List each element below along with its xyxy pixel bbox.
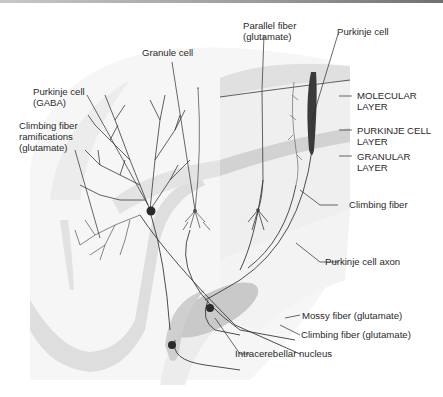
label-mossy-fiber: Mossy fiber (glutamate) [302,310,402,321]
label-granular-layer: GRANULARLAYER [357,151,410,173]
nucleus-neuron-1 [206,304,214,312]
label-climbing-fiber-glutamate: Climbing fiber (glutamate) [301,329,411,340]
label-purkinje-cell-axon: Purkinje cell axon [325,256,400,267]
label-intracerebellar-nucleus: Intracerebellar nucleus [235,348,332,359]
label-climbing-fiber: Climbing fiber [349,199,408,210]
label-climbing-fiber-ramifications: Climbing fiberramifications(glutamate) [19,120,78,153]
label-parallel-fiber: Parallel fiber(glutamate) [243,20,296,42]
label-molecular-layer: MOLECULARLAYER [357,90,417,112]
label-granule-cell: Granule cell [142,47,193,58]
label-purkinje-cell-layer: PURKINJE CELLLAYER [357,125,431,147]
label-purkinje-cell-gaba: Purkinje cell(GABA) [33,86,85,108]
nucleus-neuron-2 [168,341,176,349]
purkinje-cell-body [147,207,156,216]
label-purkinje-cell: Purkinje cell [337,26,389,37]
